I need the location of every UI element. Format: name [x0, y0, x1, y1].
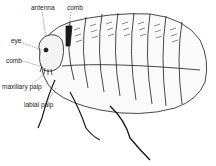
label-comb-top: comb [67, 5, 83, 12]
flea-diagram: antenna comb eye comb maxillary palp lab… [0, 0, 216, 166]
label-labial-palp: labial palp [24, 102, 53, 109]
label-maxillary-palp: maxillary palp [2, 84, 42, 91]
label-comb-side: comb [6, 58, 22, 65]
label-eye: eye [11, 38, 21, 45]
label-antenna: antenna [31, 5, 55, 12]
